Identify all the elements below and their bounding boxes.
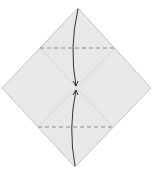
origami-diagram <box>0 0 153 177</box>
diagram-svg <box>0 0 153 177</box>
